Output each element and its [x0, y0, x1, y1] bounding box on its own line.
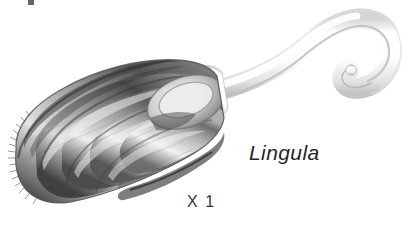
taxon-label: Lingula: [249, 142, 320, 163]
pedicle: [212, 10, 401, 99]
growth-rings: [14, 58, 232, 206]
crop-edge-artifact: [28, 0, 34, 5]
scale-marker-label: X 1: [187, 194, 216, 210]
shell-valve: [8, 58, 232, 206]
figure-container: Lingula X 1: [0, 0, 413, 228]
